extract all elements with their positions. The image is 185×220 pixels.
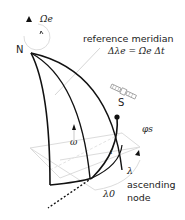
reference-meridian-label: reference meridian <box>83 34 174 44</box>
north-label: N <box>16 45 23 55</box>
reference-meridian-line <box>55 48 100 95</box>
lambda0-label: λ0 <box>103 189 115 199</box>
earth-rotation-circle <box>24 24 50 50</box>
node-label: node <box>127 193 151 203</box>
lambda-label: λ <box>127 166 133 176</box>
ascending-label: ascending <box>127 180 176 190</box>
omega-arrow-icon <box>72 124 76 130</box>
orbital-geometry-diagram: N Ω̇e reference meridian Δλe = Ω̇e Δt S … <box>0 0 185 220</box>
latitude-label: φs <box>142 125 153 134</box>
omega-dot-e-label: Ω̇e <box>40 15 53 24</box>
inclination-label: i <box>110 148 113 156</box>
satellite-label: S <box>118 98 124 108</box>
delta-lambda-equation: Δλe = Ω̇e Δt <box>108 47 165 56</box>
lambda-arrow-icon <box>135 150 140 156</box>
satellite-point <box>114 114 119 119</box>
meridian-2 <box>31 53 90 178</box>
omega-label: ω <box>70 138 77 147</box>
rotation-arrow-icon <box>26 16 32 22</box>
orbit-arc <box>92 117 117 178</box>
